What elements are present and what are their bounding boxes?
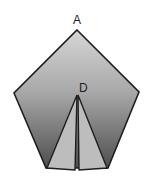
vertex-label-d: D <box>79 81 88 95</box>
vertex-label-a: A <box>73 13 81 27</box>
pentagon-diagram: A D <box>0 0 149 188</box>
